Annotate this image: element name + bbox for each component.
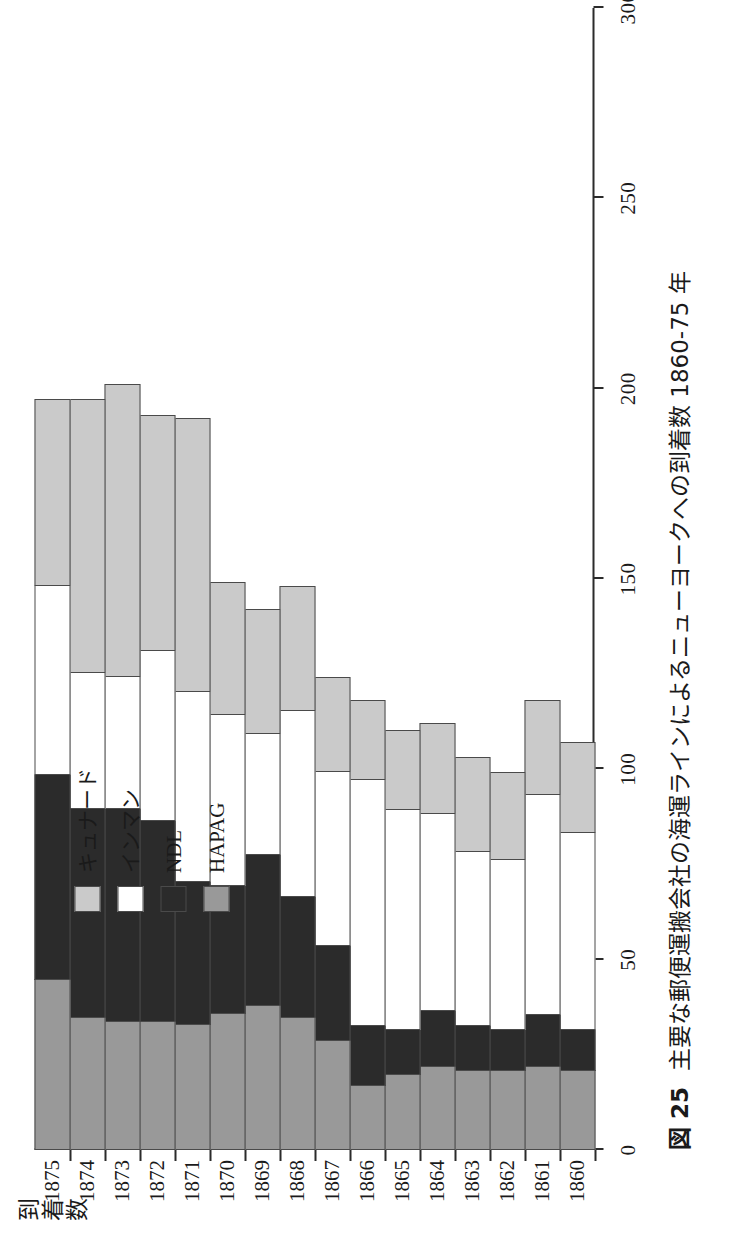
bar-1863 bbox=[454, 757, 490, 1150]
bar-1865 bbox=[384, 730, 420, 1150]
category-label-1862: 1862 bbox=[496, 1160, 517, 1236]
legend-label-キュナード: キュナード bbox=[74, 768, 100, 873]
category-label-1864: 1864 bbox=[426, 1160, 447, 1236]
bar-segment-インマン-1860 bbox=[559, 832, 595, 1030]
legend-item-インマン: インマン bbox=[117, 768, 143, 912]
legend-item-キュナード: キュナード bbox=[74, 768, 100, 912]
value-tick bbox=[593, 6, 603, 8]
category-tick bbox=[209, 1149, 211, 1161]
bar-segment-HAPAG-1873 bbox=[104, 1021, 140, 1150]
category-tick bbox=[419, 1149, 421, 1161]
legend-label-HAPAG: HAPAG bbox=[203, 803, 229, 873]
figure-stage: 到着数 050100150200250300 18601861186218631… bbox=[0, 0, 741, 1254]
bar-segment-キュナード-1874 bbox=[69, 399, 105, 673]
bar-segment-HAPAG-1864 bbox=[419, 1066, 455, 1150]
category-label-1873: 1873 bbox=[111, 1160, 132, 1236]
value-tick-label: 250 bbox=[615, 163, 640, 233]
category-tick bbox=[314, 1149, 316, 1161]
bar-segment-キュナード-1867 bbox=[314, 677, 350, 772]
legend-swatch-NDL bbox=[160, 886, 186, 912]
bar-1875 bbox=[34, 399, 70, 1150]
legend-label-NDL: NDL bbox=[160, 830, 186, 873]
bar-1867 bbox=[314, 677, 350, 1150]
bar-1862 bbox=[489, 772, 525, 1150]
bar-segment-NDL-1867 bbox=[314, 945, 350, 1040]
bar-segment-キュナード-1861 bbox=[524, 700, 560, 795]
bar-segment-NDL-1863 bbox=[454, 1025, 490, 1071]
bar-segment-キュナード-1871 bbox=[174, 418, 210, 692]
legend-swatch-HAPAG bbox=[203, 886, 229, 912]
bar-segment-キュナード-1866 bbox=[349, 700, 385, 780]
legend-label-インマン: インマン bbox=[117, 789, 143, 873]
value-tick-label: 300 bbox=[615, 0, 640, 43]
bar-segment-インマン-1865 bbox=[384, 809, 420, 1030]
bar-segment-NDL-1864 bbox=[419, 1010, 455, 1067]
bar-segment-NDL-1866 bbox=[349, 1025, 385, 1086]
plot-area: 050100150200250300 186018611862186318641… bbox=[34, 8, 594, 1150]
bar-segment-インマン-1861 bbox=[524, 794, 560, 1015]
value-tick bbox=[593, 196, 603, 198]
category-tick bbox=[244, 1149, 246, 1161]
bar-1868 bbox=[279, 586, 315, 1150]
category-label-1861: 1861 bbox=[531, 1160, 552, 1236]
category-tick bbox=[349, 1149, 351, 1161]
value-tick bbox=[593, 387, 603, 389]
category-label-1860: 1860 bbox=[566, 1160, 587, 1236]
category-tick bbox=[454, 1149, 456, 1161]
bar-segment-インマン-1866 bbox=[349, 779, 385, 1026]
bar-segment-キュナード-1870 bbox=[209, 582, 245, 715]
bar-segment-キュナード-1864 bbox=[419, 723, 455, 814]
bar-segment-キュナード-1873 bbox=[104, 384, 140, 677]
bar-segment-キュナード-1860 bbox=[559, 742, 595, 833]
value-tick-label: 150 bbox=[615, 544, 640, 614]
bar-segment-HAPAG-1875 bbox=[34, 979, 70, 1150]
bar-segment-NDL-1865 bbox=[384, 1029, 420, 1075]
bar-segment-HAPAG-1874 bbox=[69, 1017, 105, 1150]
bar-segment-キュナード-1868 bbox=[279, 586, 315, 712]
bar-segment-HAPAG-1868 bbox=[279, 1017, 315, 1150]
bar-segment-NDL-1862 bbox=[489, 1029, 525, 1071]
value-tick-label: 100 bbox=[615, 734, 640, 804]
bar-segment-キュナード-1862 bbox=[489, 772, 525, 860]
bar-segment-HAPAG-1865 bbox=[384, 1074, 420, 1150]
category-tick bbox=[279, 1149, 281, 1161]
bar-segment-NDL-1861 bbox=[524, 1014, 560, 1067]
category-label-1871: 1871 bbox=[181, 1160, 202, 1236]
category-label-1867: 1867 bbox=[321, 1160, 342, 1236]
figure-caption: 図 25主要な郵便運搬会社の海運ラインによるニューヨークへの到着数 1860-7… bbox=[660, 8, 694, 1150]
category-label-1869: 1869 bbox=[251, 1160, 272, 1236]
category-label-1875: 1875 bbox=[41, 1160, 62, 1236]
bar-segment-NDL-1869 bbox=[244, 854, 280, 1006]
category-tick bbox=[139, 1149, 141, 1161]
category-label-1870: 1870 bbox=[216, 1160, 237, 1236]
bar-segment-キュナード-1863 bbox=[454, 757, 490, 852]
category-label-1874: 1874 bbox=[76, 1160, 97, 1236]
bar-segment-HAPAG-1871 bbox=[174, 1024, 210, 1150]
category-tick bbox=[489, 1149, 491, 1161]
bar-segment-インマン-1868 bbox=[279, 710, 315, 897]
category-tick bbox=[559, 1149, 561, 1161]
category-tick bbox=[174, 1149, 176, 1161]
bar-segment-HAPAG-1860 bbox=[559, 1070, 595, 1150]
bar-segment-HAPAG-1869 bbox=[244, 1005, 280, 1150]
legend-item-NDL: NDL bbox=[160, 768, 186, 912]
bar-1866 bbox=[349, 700, 385, 1150]
bar-segment-HAPAG-1867 bbox=[314, 1040, 350, 1150]
bar-segment-NDL-1875 bbox=[34, 774, 70, 980]
bar-segment-NDL-1860 bbox=[559, 1029, 595, 1071]
legend: キュナードインマンNDLHAPAG bbox=[74, 768, 246, 912]
category-tick bbox=[594, 1149, 596, 1161]
category-tick bbox=[384, 1149, 386, 1161]
category-tick bbox=[524, 1149, 526, 1161]
bar-segment-インマン-1864 bbox=[419, 813, 455, 1011]
value-tick-label: 50 bbox=[615, 925, 640, 995]
legend-swatch-インマン bbox=[117, 886, 143, 912]
category-label-1872: 1872 bbox=[146, 1160, 167, 1236]
value-tick-label: 200 bbox=[615, 354, 640, 424]
bar-segment-インマン-1867 bbox=[314, 771, 350, 946]
bar-segment-HAPAG-1872 bbox=[139, 1021, 175, 1150]
category-label-1868: 1868 bbox=[286, 1160, 307, 1236]
bar-segment-インマン-1875 bbox=[34, 585, 70, 775]
bar-segment-HAPAG-1870 bbox=[209, 1013, 245, 1150]
category-label-1863: 1863 bbox=[461, 1160, 482, 1236]
